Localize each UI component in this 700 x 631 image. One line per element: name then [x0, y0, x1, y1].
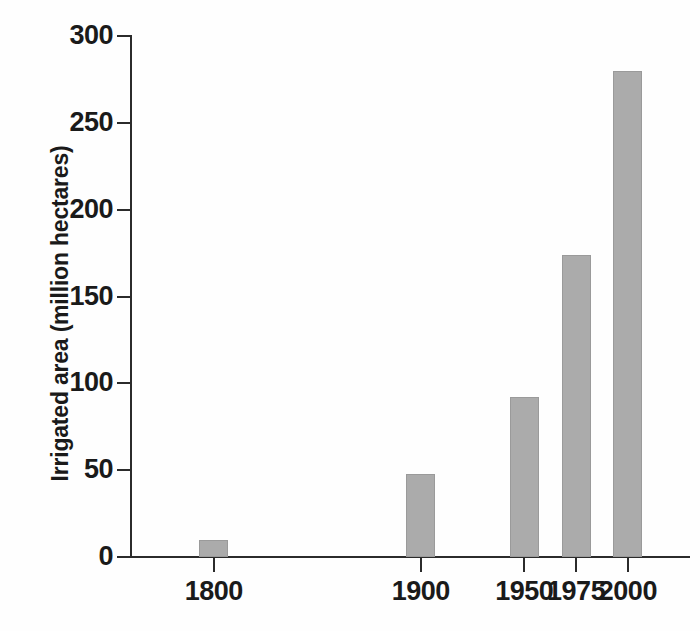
x-axis-tick-mark [627, 558, 629, 572]
x-axis-tick-mark [575, 558, 577, 572]
y-axis-tick-label: 200 [0, 196, 113, 223]
y-axis-tick-mark [117, 35, 131, 37]
y-axis-tick-label: 50 [0, 456, 113, 483]
y-axis-tick-label: 0 [0, 543, 113, 570]
bar [406, 474, 435, 557]
y-axis-tick-label: 300 [0, 22, 113, 49]
y-axis-tick-label: 250 [0, 109, 113, 136]
x-axis-tick-mark [523, 558, 525, 572]
y-axis-tick-mark [117, 556, 131, 558]
bar [562, 255, 591, 557]
plot-area: Irrigated area (million hectares) 050100… [0, 0, 700, 631]
bar [199, 540, 228, 557]
chart-figure: Irrigated area (million hectares) 050100… [0, 0, 700, 631]
x-axis-tick-label: 2000 [568, 578, 688, 605]
x-axis-tick-mark [420, 558, 422, 572]
bar [613, 71, 642, 557]
y-axis-tick-mark [117, 382, 131, 384]
y-axis-tick-label: 150 [0, 283, 113, 310]
y-axis-tick-mark [117, 209, 131, 211]
y-axis-tick-mark [117, 122, 131, 124]
y-axis-tick-mark [117, 296, 131, 298]
bar [510, 397, 539, 557]
y-axis-tick-label: 100 [0, 369, 113, 396]
x-axis-tick-label: 1800 [154, 578, 274, 605]
x-axis-tick-mark [213, 558, 215, 572]
x-axis-tick-label: 1900 [361, 578, 481, 605]
y-axis-tick-mark [117, 469, 131, 471]
